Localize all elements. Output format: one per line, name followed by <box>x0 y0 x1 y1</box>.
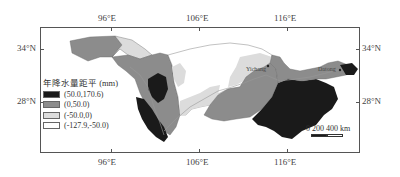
city-label-datong: Datong <box>318 66 336 72</box>
top-tick-label-116e: 116°E <box>274 13 296 23</box>
right-tick-label-28n: 28°N <box>362 96 381 106</box>
legend-item: (0,50.0) <box>43 100 118 111</box>
legend-item: (-127.9,-50.0) <box>43 121 118 132</box>
left-tick-label-34n: 34°N <box>17 43 36 53</box>
bottom-tick-label-116e: 116°E <box>274 157 296 167</box>
datong-marker <box>339 69 341 71</box>
left-tick-label-28n: 28°N <box>17 96 36 106</box>
legend-title: 年降水量距平 (mm) <box>43 76 118 88</box>
top-tick-label-96e: 96°E <box>98 13 116 23</box>
yichang-marker <box>267 65 269 67</box>
bottom-tick-label-106e: 106°E <box>186 157 209 167</box>
legend-label: (0,50.0) <box>64 100 89 109</box>
legend-item: (50.0,170.6) <box>43 89 118 100</box>
scale-bar-labels: 0 200 400 km <box>306 124 350 133</box>
legend-label: (-127.9,-50.0) <box>64 121 109 130</box>
bottom-tick-label-96e: 96°E <box>98 157 116 167</box>
legend-swatch-dark <box>43 91 60 98</box>
scale-segment-dark <box>311 134 327 137</box>
legend-swatch-white <box>43 122 60 129</box>
city-label-yichang: Yichang <box>246 66 266 72</box>
scale-bar: 0 200 400 km <box>306 124 350 137</box>
legend: 年降水量距平 (mm) (50.0,170.6) (0,50.0) (-50.0… <box>43 76 118 131</box>
right-tick-label-34n: 34°N <box>362 43 381 53</box>
legend-label: (-50.0,0) <box>64 111 92 120</box>
legend-swatch-gray <box>43 101 60 108</box>
top-tick-label-106e: 106°E <box>186 13 209 23</box>
legend-swatch-light <box>43 112 60 119</box>
scale-bar-graphic <box>311 134 350 137</box>
legend-label: (50.0,170.6) <box>64 90 103 99</box>
scale-segment-light <box>327 134 343 137</box>
legend-item: (-50.0,0) <box>43 110 118 121</box>
